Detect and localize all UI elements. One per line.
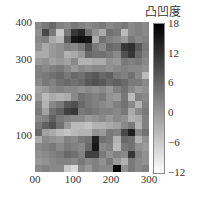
heatmap-cell bbox=[78, 165, 85, 172]
heatmap-cell bbox=[92, 151, 99, 158]
heatmap-cell bbox=[142, 29, 149, 36]
heatmap-cell bbox=[85, 136, 92, 143]
heatmap-cell bbox=[106, 151, 113, 158]
heatmap-cell bbox=[99, 165, 106, 172]
heatmap-cell bbox=[135, 122, 142, 129]
heatmap-cell bbox=[42, 93, 49, 100]
heatmap-cell bbox=[56, 151, 63, 158]
heatmap-cell bbox=[56, 158, 63, 165]
heatmap-cell bbox=[49, 93, 56, 100]
heatmap-cell bbox=[42, 122, 49, 129]
heatmap-cell bbox=[128, 122, 135, 129]
heatmap-cell bbox=[142, 122, 149, 129]
heatmap-cell bbox=[99, 43, 106, 50]
heatmap-cell bbox=[78, 101, 85, 108]
heatmap-cell bbox=[106, 72, 113, 79]
heatmap-cell bbox=[56, 101, 63, 108]
heatmap-cell bbox=[35, 58, 42, 65]
heatmap-cell bbox=[42, 165, 49, 172]
heatmap-cell bbox=[49, 108, 56, 115]
y-tick-label: 300 bbox=[0, 54, 32, 65]
heatmap-cell bbox=[121, 43, 128, 50]
heatmap-cell bbox=[78, 93, 85, 100]
heatmap-cell bbox=[135, 165, 142, 172]
heatmap-cell bbox=[142, 151, 149, 158]
heatmap-cell bbox=[113, 58, 120, 65]
heatmap-cell bbox=[42, 58, 49, 65]
heatmap-cell bbox=[56, 129, 63, 136]
heatmap-cell bbox=[49, 129, 56, 136]
heatmap-cell bbox=[99, 143, 106, 150]
heatmap-cell bbox=[35, 115, 42, 122]
heatmap-cell bbox=[71, 93, 78, 100]
heatmap-cell bbox=[49, 22, 56, 29]
heatmap-cell bbox=[71, 51, 78, 58]
heatmap-cell bbox=[113, 108, 120, 115]
heatmap-cell bbox=[121, 158, 128, 165]
heatmap-cell bbox=[128, 51, 135, 58]
heatmap-cell bbox=[135, 51, 142, 58]
heatmap-cell bbox=[56, 51, 63, 58]
heatmap-cell bbox=[128, 86, 135, 93]
heatmap-cell bbox=[99, 115, 106, 122]
heatmap-cell bbox=[142, 43, 149, 50]
heatmap-cell bbox=[142, 93, 149, 100]
heatmap-cell bbox=[64, 51, 71, 58]
heatmap-cell bbox=[85, 158, 92, 165]
heatmap-cell bbox=[64, 29, 71, 36]
heatmap-cell bbox=[128, 29, 135, 36]
heatmap-cell bbox=[78, 86, 85, 93]
heatmap-cell bbox=[35, 29, 42, 36]
heatmap-cell bbox=[106, 122, 113, 129]
heatmap-cell bbox=[49, 136, 56, 143]
y-tick-label: 100 bbox=[0, 130, 32, 141]
heatmap-cell bbox=[64, 143, 71, 150]
y-tick-label: 200 bbox=[0, 92, 32, 103]
heatmap-cell bbox=[128, 93, 135, 100]
heatmap-cell bbox=[142, 79, 149, 86]
heatmap-cell bbox=[128, 165, 135, 172]
heatmap-cell bbox=[113, 79, 120, 86]
heatmap-cell bbox=[42, 129, 49, 136]
heatmap-cell bbox=[113, 101, 120, 108]
heatmap-cell bbox=[92, 65, 99, 72]
heatmap-cell bbox=[49, 36, 56, 43]
heatmap-cell bbox=[128, 65, 135, 72]
heatmap-cell bbox=[78, 158, 85, 165]
heatmap-cell bbox=[99, 136, 106, 143]
heatmap-cell bbox=[78, 51, 85, 58]
heatmap-cell bbox=[71, 129, 78, 136]
heatmap-cell bbox=[35, 65, 42, 72]
heatmap-cell bbox=[106, 86, 113, 93]
x-tick-label: 200 bbox=[103, 174, 120, 185]
heatmap-cell bbox=[42, 101, 49, 108]
heatmap-cell bbox=[42, 151, 49, 158]
heatmap-cell bbox=[35, 22, 42, 29]
x-tick-label: 300 bbox=[141, 174, 158, 185]
heatmap-cell bbox=[85, 29, 92, 36]
heatmap-cell bbox=[99, 151, 106, 158]
heatmap-cell bbox=[56, 143, 63, 150]
heatmap-cell bbox=[121, 79, 128, 86]
heatmap-cell bbox=[56, 86, 63, 93]
heatmap-cell bbox=[42, 108, 49, 115]
heatmap-cell bbox=[71, 29, 78, 36]
heatmap-cell bbox=[35, 122, 42, 129]
heatmap-cell bbox=[85, 101, 92, 108]
heatmap-cell bbox=[99, 36, 106, 43]
heatmap-cell bbox=[85, 143, 92, 150]
heatmap-cell bbox=[113, 51, 120, 58]
heatmap-cell bbox=[35, 108, 42, 115]
heatmap-cell bbox=[71, 151, 78, 158]
heatmap-cell bbox=[121, 143, 128, 150]
heatmap-cell bbox=[142, 58, 149, 65]
heatmap-cell bbox=[113, 65, 120, 72]
heatmap-cell bbox=[71, 58, 78, 65]
heatmap-cell bbox=[35, 151, 42, 158]
heatmap-cell bbox=[56, 115, 63, 122]
heatmap-cell bbox=[99, 93, 106, 100]
heatmap-cell bbox=[42, 65, 49, 72]
heatmap-cell bbox=[99, 79, 106, 86]
heatmap-cell bbox=[64, 72, 71, 79]
heatmap-cell bbox=[135, 86, 142, 93]
